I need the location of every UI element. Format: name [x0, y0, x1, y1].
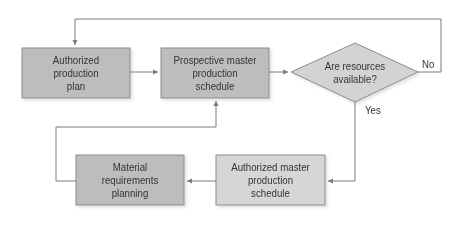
label-authorized-production-plan: Authorized production plan: [28, 48, 123, 98]
label-line: production: [231, 174, 310, 187]
label-line: planning: [102, 187, 158, 200]
label-authorized-mps: Authorized master production schedule: [223, 155, 319, 205]
label-line: Material: [102, 161, 158, 174]
label-prospective-mps: Prospective master production schedule: [167, 48, 262, 98]
label-line: schedule: [174, 80, 257, 93]
label-line: plan: [53, 80, 99, 93]
label-line: production: [174, 67, 257, 80]
label-line: requirements: [102, 174, 158, 187]
label-line: Authorized master: [231, 161, 310, 174]
label-line: Authorized: [53, 54, 99, 67]
label-mrp: Material requirements planning: [82, 155, 177, 205]
label-line: schedule: [231, 187, 310, 200]
edge-yes: [328, 102, 355, 181]
label-line: Are resources: [325, 60, 385, 73]
label-line: production: [53, 67, 99, 80]
edge-label-no: No: [422, 58, 434, 70]
edge-label-yes: Yes: [365, 104, 381, 116]
label-resources-decision: Are resources available?: [311, 58, 399, 88]
label-line: Prospective master: [174, 54, 257, 67]
label-line: available?: [325, 73, 385, 86]
